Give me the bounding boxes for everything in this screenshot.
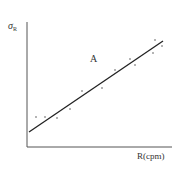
data-points	[35, 39, 163, 119]
data-point	[56, 117, 58, 119]
data-point	[35, 116, 37, 118]
y-axis-label: σR	[8, 20, 17, 32]
data-point	[134, 64, 136, 66]
data-point	[101, 87, 103, 89]
x-axis-label: R(cpm)	[137, 151, 165, 161]
data-point	[161, 45, 163, 47]
scatter-chart: σR A R(cpm)	[0, 0, 188, 169]
data-point	[44, 116, 46, 118]
data-point	[129, 58, 131, 60]
data-point	[114, 69, 116, 71]
data-point	[154, 39, 156, 41]
data-point	[81, 90, 83, 92]
data-point	[152, 52, 154, 54]
data-point	[69, 108, 71, 110]
annotation-label: A	[90, 53, 98, 64]
